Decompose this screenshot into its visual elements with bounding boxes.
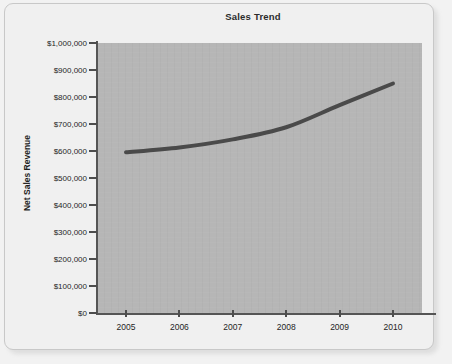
- series-line-path: [126, 84, 393, 153]
- chart-screenshot: Sales Trend $0$100,000$200,000$300,000$4…: [0, 0, 452, 364]
- sales-trend-line-series: [0, 0, 452, 364]
